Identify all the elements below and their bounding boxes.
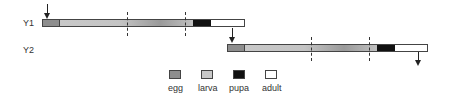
legend-swatch-egg xyxy=(169,70,181,79)
row-label-y1: Y1 xyxy=(23,18,34,28)
legend-label-larva: larva xyxy=(198,83,218,93)
lifecycle-bar-y1 xyxy=(42,19,245,27)
lifecycle-bar-y2 xyxy=(227,44,428,52)
legend-label-pupa: pupa xyxy=(229,83,249,93)
adult-segment xyxy=(395,45,427,51)
row-label-y2: Y2 xyxy=(23,45,34,55)
dashed-divider xyxy=(311,37,312,61)
egg-segment xyxy=(228,45,245,51)
dashed-divider xyxy=(185,12,186,36)
legend-label-adult: adult xyxy=(262,83,282,93)
dashed-divider xyxy=(127,12,128,36)
pupa-segment xyxy=(377,45,395,51)
dashed-divider xyxy=(369,37,370,61)
pupa-segment xyxy=(193,20,211,26)
arrow-down-icon xyxy=(229,37,235,43)
legend-swatch-larva xyxy=(201,70,213,79)
legend-swatch-adult xyxy=(265,70,277,79)
legend-label-egg: egg xyxy=(168,83,183,93)
arrow-down-icon xyxy=(415,60,421,66)
adult-segment xyxy=(211,20,244,26)
legend-swatch-pupa xyxy=(233,70,245,79)
egg-segment xyxy=(43,20,60,26)
